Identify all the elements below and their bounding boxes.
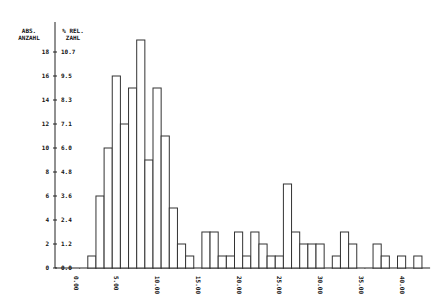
histogram-bar xyxy=(120,124,128,268)
histogram-bar xyxy=(259,244,267,268)
y-tick-label-abs: 18 xyxy=(42,48,50,55)
y-tick-label-abs: 16 xyxy=(42,72,50,79)
y-tick-label-abs: 0 xyxy=(45,264,49,271)
histogram-bar xyxy=(349,244,357,268)
histogram-bar xyxy=(235,232,243,268)
histogram-bar xyxy=(275,256,283,268)
x-tick-label: 30.00 xyxy=(317,276,324,294)
histogram-bar xyxy=(414,256,422,268)
y-tick-label-rel: 10.7 xyxy=(61,48,76,55)
histogram-bar xyxy=(251,232,259,268)
y-tick-label-rel: 6.0 xyxy=(61,144,72,151)
y-tick-label-rel: 4.8 xyxy=(61,168,72,175)
histogram-bar xyxy=(373,244,381,268)
y-tick-label-rel: 2.4 xyxy=(61,216,72,223)
histogram-bar xyxy=(340,232,348,268)
histogram-bar xyxy=(267,256,275,268)
y-tick-label-rel: 7.1 xyxy=(61,120,72,127)
histogram-bar xyxy=(186,256,194,268)
y-tick-label-abs: 10 xyxy=(42,144,50,151)
histogram-bar xyxy=(145,160,153,268)
histogram-bar xyxy=(137,40,145,268)
histogram-bar xyxy=(226,256,234,268)
histogram-bar xyxy=(332,256,340,268)
histogram-bar xyxy=(398,256,406,268)
x-tick-label: 25.00 xyxy=(276,276,283,294)
histogram-bar xyxy=(381,256,389,268)
y-tick-label-rel: 1.2 xyxy=(61,240,72,247)
histogram-bar xyxy=(218,256,226,268)
histogram-bar xyxy=(88,256,96,268)
histogram-bar xyxy=(292,232,300,268)
y-tick-label-abs: 4 xyxy=(45,216,49,223)
x-tick-label: 10.00 xyxy=(154,276,161,294)
histogram-bar xyxy=(161,136,169,268)
histogram-bar xyxy=(300,244,308,268)
y-tick-label-abs: 12 xyxy=(42,120,50,127)
y-tick-label-rel: 0.0 xyxy=(61,264,72,271)
histogram-bar xyxy=(243,256,251,268)
histogram-bar xyxy=(283,184,291,268)
y-tick-label-abs: 8 xyxy=(45,168,49,175)
y-tick-label-abs: 2 xyxy=(45,240,49,247)
y-tick-label-abs: 14 xyxy=(42,96,50,103)
histogram-chart: 00.021.242.463.684.8106.0127.1148.3169.5… xyxy=(0,0,448,308)
y-tick-label-rel: 3.6 xyxy=(61,192,72,199)
histogram-bar xyxy=(202,232,210,268)
histogram-bar xyxy=(112,76,120,268)
histogram-bar xyxy=(104,148,112,268)
y-tick-label-rel: 8.3 xyxy=(61,96,72,103)
histogram-bar xyxy=(96,196,104,268)
histogram-bar xyxy=(316,244,324,268)
histogram-bar xyxy=(177,244,185,268)
histogram-bar xyxy=(210,232,218,268)
y-tick-label-rel: 9.5 xyxy=(61,72,72,79)
x-tick-label: 40.00 xyxy=(399,276,406,294)
y-tick-label-abs: 6 xyxy=(45,192,49,199)
x-tick-label: 0.00 xyxy=(73,276,80,291)
histogram-bar xyxy=(153,88,161,268)
x-tick-label: 20.00 xyxy=(236,276,243,294)
x-tick-label: 35.00 xyxy=(358,276,365,294)
histogram-bar xyxy=(169,208,177,268)
x-tick-label: 5.00 xyxy=(113,276,120,291)
x-tick-label: 15.00 xyxy=(195,276,202,294)
histogram-bar xyxy=(129,88,137,268)
histogram-bar xyxy=(308,244,316,268)
